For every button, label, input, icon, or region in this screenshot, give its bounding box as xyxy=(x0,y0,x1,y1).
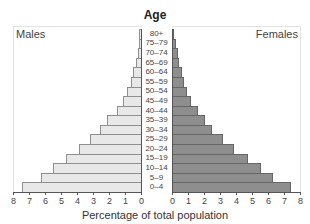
x-tick-label: 0 xyxy=(134,196,150,206)
age-group-label: 70–74 xyxy=(141,48,172,58)
age-group-label: 50–54 xyxy=(141,86,172,96)
chart-title: Age xyxy=(0,8,310,22)
age-group-label: 20–24 xyxy=(141,144,172,154)
x-tick xyxy=(172,192,173,195)
females-label: Females xyxy=(256,28,298,40)
x-tick xyxy=(29,192,30,195)
age-group-label: 55–59 xyxy=(141,77,172,87)
x-tick xyxy=(45,192,46,195)
age-group-label: 5–9 xyxy=(141,173,172,183)
x-tick xyxy=(13,192,14,195)
x-tick-label: 1 xyxy=(118,196,134,206)
x-tick-label: 0 xyxy=(165,196,181,206)
x-tick xyxy=(93,192,94,195)
x-tick xyxy=(268,192,269,195)
zero-line xyxy=(172,29,173,192)
x-tick xyxy=(284,192,285,195)
x-tick-label: 6 xyxy=(38,196,54,206)
x-tick xyxy=(125,192,126,195)
age-group-label: 0–4 xyxy=(141,182,172,192)
age-group-label: 40–44 xyxy=(141,106,172,116)
age-group-label: 60–64 xyxy=(141,67,172,77)
x-tick xyxy=(204,192,205,195)
age-group-label: 30–34 xyxy=(141,125,172,135)
x-axis-label: Percentage of total population xyxy=(0,209,310,221)
age-group-label: 80+ xyxy=(141,29,172,39)
x-tick xyxy=(220,192,221,195)
x-tick-label: 2 xyxy=(197,196,213,206)
age-group-label: 10–14 xyxy=(141,163,172,173)
x-tick xyxy=(77,192,78,195)
x-tick xyxy=(61,192,62,195)
x-tick-label: 5 xyxy=(245,196,261,206)
x-tick xyxy=(236,192,237,195)
age-group-label: 15–19 xyxy=(141,153,172,163)
x-tick-label: 8 xyxy=(6,196,22,206)
x-tick-label: 4 xyxy=(229,196,245,206)
x-tick-label: 3 xyxy=(86,196,102,206)
x-tick-label: 2 xyxy=(102,196,118,206)
age-group-label: 75–79 xyxy=(141,38,172,48)
x-tick xyxy=(300,192,301,195)
x-tick-label: 5 xyxy=(54,196,70,206)
x-tick-label: 1 xyxy=(181,196,197,206)
x-tick-label: 7 xyxy=(277,196,293,206)
x-tick-label: 8 xyxy=(293,196,309,206)
x-tick xyxy=(109,192,110,195)
age-group-label: 65–69 xyxy=(141,58,172,68)
age-group-label: 25–29 xyxy=(141,134,172,144)
males-label: Males xyxy=(16,28,45,40)
age-group-label: 35–39 xyxy=(141,115,172,125)
x-tick xyxy=(188,192,189,195)
x-tick-label: 7 xyxy=(22,196,38,206)
x-tick xyxy=(141,192,142,195)
x-tick-label: 4 xyxy=(70,196,86,206)
x-tick-label: 3 xyxy=(213,196,229,206)
x-tick xyxy=(252,192,253,195)
x-tick-label: 6 xyxy=(261,196,277,206)
age-group-label: 45–49 xyxy=(141,96,172,106)
